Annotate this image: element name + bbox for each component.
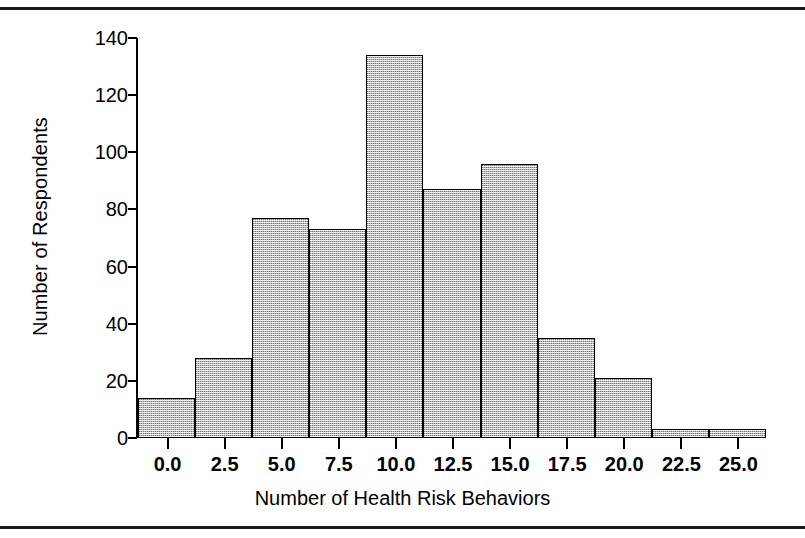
- x-tick-mark: [452, 438, 454, 449]
- x-tick-mark: [338, 438, 340, 449]
- y-tick-label: 140: [72, 28, 128, 48]
- y-tick-label: 100: [72, 142, 128, 162]
- x-tick-mark: [224, 438, 226, 449]
- histogram-bar: [652, 429, 709, 438]
- figure-page: Number of Respondents 020406080100120140…: [0, 0, 805, 538]
- histogram-bar: [366, 55, 423, 438]
- y-tick-label: 20: [72, 371, 128, 391]
- x-tick-mark: [623, 438, 625, 449]
- x-tick-mark: [680, 438, 682, 449]
- y-tick-label: 40: [72, 314, 128, 334]
- x-axis-title: Number of Health Risk Behaviors: [0, 488, 805, 508]
- histogram-bar: [709, 429, 766, 438]
- x-tick-mark: [167, 438, 169, 449]
- y-axis-title: Number of Respondents: [29, 27, 52, 427]
- histogram-bar: [538, 338, 595, 438]
- bottom-divider-rule: [0, 526, 805, 529]
- x-tick-mark: [395, 438, 397, 449]
- y-tick-label: 0: [72, 428, 128, 448]
- x-tick-mark: [566, 438, 568, 449]
- y-tick-label: 120: [72, 85, 128, 105]
- x-tick-label: 25.0: [703, 454, 773, 474]
- histogram-bar: [309, 229, 366, 438]
- histogram-bar: [252, 218, 309, 438]
- x-tick-mark: [737, 438, 739, 449]
- histogram-figure: Number of Respondents 020406080100120140…: [0, 10, 805, 525]
- y-tick-label: 80: [72, 199, 128, 219]
- histogram-bar: [195, 358, 252, 438]
- histogram-bar: [595, 378, 652, 438]
- histogram-bar: [138, 398, 195, 438]
- histogram-bar: [423, 189, 480, 438]
- histogram-bar: [481, 164, 538, 438]
- x-tick-mark: [509, 438, 511, 449]
- y-tick-label: 60: [72, 257, 128, 277]
- x-tick-mark: [281, 438, 283, 449]
- plot-area: [138, 38, 766, 438]
- y-axis-tick-labels: 020406080100120140: [62, 10, 128, 440]
